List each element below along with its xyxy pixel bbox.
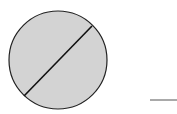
diagram-canvas [0,0,177,114]
